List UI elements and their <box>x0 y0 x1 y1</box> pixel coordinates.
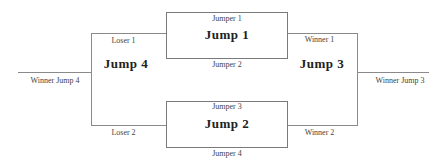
jump-2-title: Jump 2 <box>166 117 288 131</box>
jump-1-bottom-label: Jumper 2 <box>166 60 288 70</box>
winner-jump-3-label: Winner Jump 3 <box>362 76 438 86</box>
winner-1-connector <box>288 33 358 34</box>
loser-1-label: Loser 1 <box>96 36 151 46</box>
winner-2-label: Winner 2 <box>292 128 347 138</box>
jump-2-bottom-label: Jumper 4 <box>166 149 288 159</box>
bracket-diagram: Jumper 1 Jump 1 Jumper 2 Jumper 3 Jump 2… <box>0 0 443 164</box>
winner-jump-4-label: Winner Jump 4 <box>18 76 92 86</box>
winner-1-label: Winner 1 <box>292 35 347 45</box>
winner-jump-3-line <box>357 72 429 73</box>
jump-4-title: Jump 4 <box>96 57 156 71</box>
winner-2-connector <box>288 125 358 126</box>
loser-2-label: Loser 2 <box>96 128 151 138</box>
jump-1-top-label: Jumper 1 <box>166 14 288 24</box>
loser-2-connector <box>91 125 166 126</box>
jump-3-title: Jump 3 <box>292 57 352 71</box>
winner-jump-4-line <box>18 72 92 73</box>
jump-3-vertical <box>357 33 358 126</box>
jump-1-title: Jump 1 <box>166 28 288 42</box>
loser-1-connector <box>91 33 166 34</box>
jump-2-top-label: Jumper 3 <box>166 102 288 112</box>
